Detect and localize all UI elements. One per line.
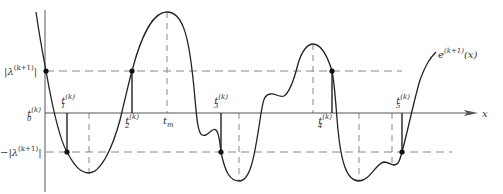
t3-label: t(k)3 bbox=[214, 93, 228, 110]
curve-label: e(k+1)(x) bbox=[438, 47, 477, 60]
extremum-dashed-verticals bbox=[89, 12, 392, 181]
t4-label: t(k)4 bbox=[317, 113, 332, 130]
t2-label: t(k)2 bbox=[124, 113, 139, 130]
point-t1-dot bbox=[64, 149, 69, 154]
lower-level-label: −|λ(k+1)| bbox=[0, 145, 42, 159]
point-t4-dot bbox=[329, 68, 334, 73]
point-t0-dot bbox=[43, 68, 48, 73]
alternation-point-dots bbox=[43, 68, 404, 154]
t5-label: t(k)5 bbox=[396, 93, 410, 110]
error-curve-diagram: |λ(k+1)| −|λ(k+1)| t(k)0 t(k)1 t(k)2 tm … bbox=[0, 0, 503, 194]
point-t5-dot bbox=[399, 149, 404, 154]
x-axis-label: x bbox=[482, 108, 488, 119]
error-curve bbox=[36, 12, 436, 181]
point-t3-dot bbox=[218, 149, 223, 154]
alternation-point-segments bbox=[67, 71, 402, 152]
t1-label: t(k)1 bbox=[61, 93, 75, 110]
t0-label: t(k)0 bbox=[27, 106, 41, 123]
point-t2-dot bbox=[129, 68, 134, 73]
tm-label: tm bbox=[163, 115, 174, 129]
upper-level-label: |λ(k+1)| bbox=[4, 64, 37, 78]
